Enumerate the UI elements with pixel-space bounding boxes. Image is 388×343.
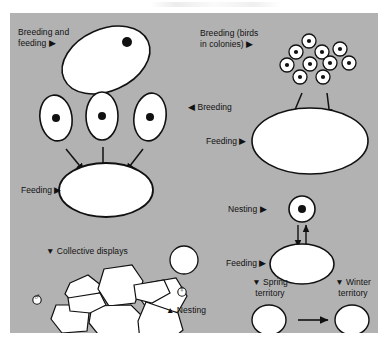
colony-dot bbox=[328, 61, 332, 65]
nest-dot bbox=[52, 114, 60, 122]
colony-dot bbox=[285, 63, 289, 67]
colony-dot bbox=[308, 62, 312, 66]
spring-territory-circle bbox=[252, 305, 286, 333]
nest-dot bbox=[146, 113, 154, 121]
colony-cluster-group bbox=[252, 34, 368, 174]
nest-dot bbox=[98, 112, 106, 120]
nest-dot bbox=[298, 205, 306, 213]
colony-dot bbox=[347, 61, 351, 65]
label-nesting-bottom: ▲ Nesting bbox=[166, 305, 240, 316]
seasonal-territories-group bbox=[252, 305, 369, 333]
label-feeding-right: Feeding ▶ bbox=[206, 136, 268, 147]
colony-dot bbox=[294, 50, 298, 54]
label-breeding: ◀ Breeding bbox=[188, 102, 258, 113]
colony-dot bbox=[338, 47, 342, 51]
label-feeding-lower-right: Feeding ▶ bbox=[226, 258, 288, 269]
label-collective-displays: ▼ Collective displays bbox=[46, 246, 176, 257]
colony-dot bbox=[298, 75, 302, 79]
colony-dot bbox=[320, 50, 324, 54]
breeding-territories-group bbox=[37, 91, 169, 217]
scan-artifact bbox=[150, 2, 280, 7]
diagram-panel: Breeding and feeding ▶ Breeding (birds i… bbox=[10, 13, 378, 333]
label-spring-territory: ▼ Spring territory bbox=[237, 277, 303, 298]
winter-territory-circle bbox=[335, 305, 369, 333]
colony-dot bbox=[321, 75, 325, 79]
male-symbol-icon: ♂ bbox=[29, 292, 45, 303]
label-breeding-and-feeding: Breeding and feeding ▶ bbox=[18, 27, 96, 48]
label-breeding-colonies: Breeding (birds in colonies) ▶ bbox=[200, 28, 282, 49]
colonial-feeding-area-ellipse bbox=[252, 108, 368, 174]
label-feeding-left: Feeding ▶ bbox=[21, 185, 83, 196]
colony-dot bbox=[307, 39, 311, 43]
nest-dot bbox=[122, 37, 132, 47]
female-symbol-icon: ♀ bbox=[174, 284, 190, 295]
label-nesting-right: Nesting ▶ bbox=[228, 204, 288, 215]
figure-container: Breeding and feeding ▶ Breeding (birds i… bbox=[0, 0, 388, 343]
label-winter-territory: ▼ Winter territory bbox=[320, 277, 378, 298]
